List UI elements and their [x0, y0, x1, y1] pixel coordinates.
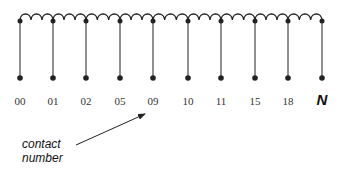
- tap-00: [17, 19, 23, 81]
- contact-terminal-dot: [319, 75, 325, 81]
- contact-terminal-dot: [117, 75, 123, 81]
- contact-label: 02: [81, 95, 92, 107]
- contact-terminal-dot: [83, 75, 89, 81]
- contact-label: 15: [250, 95, 262, 107]
- contact-label: 00: [15, 95, 27, 107]
- tap-18: [285, 19, 291, 81]
- tap-junction-dot: [219, 19, 224, 24]
- contact-terminal-dot: [218, 75, 224, 81]
- tap-11: [218, 19, 224, 81]
- annotation-line2: number: [22, 151, 64, 165]
- contact-label: 09: [148, 95, 160, 107]
- contact-number-annotation: contact number: [22, 114, 145, 165]
- annotation-arrow: [76, 114, 145, 145]
- tap-15: [252, 19, 258, 81]
- contact-terminal-dot: [17, 75, 23, 81]
- coil-winding: [20, 14, 322, 20]
- contact-label: 05: [115, 95, 127, 107]
- tapped-coil-diagram: 000102050910111518N contact number: [0, 0, 351, 177]
- contact-terminal-dot: [150, 75, 156, 81]
- tap-N: [319, 19, 325, 81]
- contact-label: 01: [48, 95, 59, 107]
- tap-junction-dot: [151, 19, 156, 24]
- contact-taps: [17, 19, 325, 81]
- contact-terminal-dot: [50, 75, 56, 81]
- contact-labels: 000102050910111518N: [15, 91, 329, 108]
- contact-terminal-dot: [185, 75, 191, 81]
- contact-terminal-dot: [252, 75, 258, 81]
- tap-01: [50, 19, 56, 81]
- contact-label: 18: [283, 95, 295, 107]
- tap-junction-dot: [253, 19, 258, 24]
- tap-junction-dot: [51, 19, 56, 24]
- tap-junction-dot: [118, 19, 123, 24]
- contact-label: 11: [216, 95, 227, 107]
- tap-09: [150, 19, 156, 81]
- tap-junction-dot: [286, 19, 291, 24]
- tap-junction-dot: [186, 19, 191, 24]
- tap-junction-dot: [84, 19, 89, 24]
- contact-terminal-dot: [285, 75, 291, 81]
- annotation-line1: contact: [22, 137, 61, 151]
- tap-05: [117, 19, 123, 81]
- contact-label: 10: [183, 95, 195, 107]
- tap-02: [83, 19, 89, 81]
- contact-label: N: [317, 91, 329, 108]
- coil-path: [20, 14, 322, 20]
- tap-junction-dot: [320, 19, 325, 24]
- tap-junction-dot: [18, 19, 23, 24]
- tap-10: [185, 19, 191, 81]
